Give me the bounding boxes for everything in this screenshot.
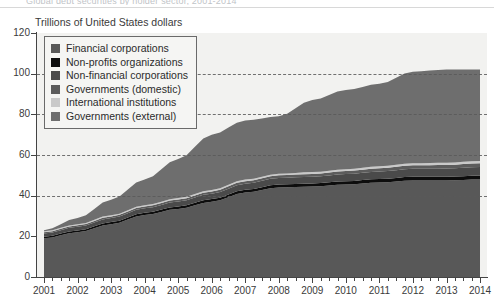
x-tick-minor bbox=[86, 277, 87, 281]
x-tick-2013 bbox=[447, 277, 448, 283]
gridline-60 bbox=[37, 155, 487, 156]
x-tick-minor bbox=[430, 277, 431, 281]
x-tick-minor bbox=[203, 277, 204, 281]
legend-item-governments-domestic[interactable]: Governments (domestic) bbox=[51, 83, 188, 97]
x-tick-minor bbox=[338, 277, 339, 281]
x-tick-minor bbox=[363, 277, 364, 281]
x-tick-minor bbox=[396, 277, 397, 281]
x-tick-minor bbox=[270, 277, 271, 281]
x-tick-minor bbox=[153, 277, 154, 281]
x-tick-2006 bbox=[212, 277, 213, 283]
x-tick-2003 bbox=[111, 277, 112, 283]
x-tick-minor bbox=[69, 277, 70, 281]
legend-item-label: Financial corporations bbox=[66, 42, 169, 56]
legend-item-label: Governments (domestic) bbox=[66, 83, 181, 97]
y-axis-label-40: 40 bbox=[0, 190, 30, 200]
x-tick-2008 bbox=[279, 277, 280, 283]
x-tick-minor bbox=[438, 277, 439, 281]
chart-legend: Financial corporations Non-profits organ… bbox=[44, 36, 197, 129]
x-tick-minor bbox=[463, 277, 464, 281]
x-tick-minor bbox=[472, 277, 473, 281]
x-tick-minor bbox=[262, 277, 263, 281]
x-tick-2010 bbox=[346, 277, 347, 283]
x-tick-minor bbox=[161, 277, 162, 281]
area-series-0 bbox=[44, 179, 480, 277]
legend-item-label: Governments (external) bbox=[66, 110, 176, 124]
x-tick-minor bbox=[371, 277, 372, 281]
chart-page: Global debt securities by holder sector,… bbox=[0, 0, 494, 306]
x-tick-2004 bbox=[145, 277, 146, 283]
legend-item-governments-external[interactable]: Governments (external) bbox=[51, 110, 188, 124]
x-tick-minor bbox=[304, 277, 305, 281]
x-tick-minor bbox=[321, 277, 322, 281]
legend-item-financial-corporations[interactable]: Financial corporations bbox=[51, 42, 188, 56]
legend-swatch-icon bbox=[51, 44, 60, 53]
legend-item-label: Non-financial corporations bbox=[66, 69, 188, 83]
x-tick-minor bbox=[388, 277, 389, 281]
y-axis-label-20: 20 bbox=[0, 231, 30, 241]
legend-swatch-icon bbox=[51, 112, 60, 121]
x-tick-2007 bbox=[245, 277, 246, 283]
x-tick-minor bbox=[128, 277, 129, 281]
x-tick-minor bbox=[254, 277, 255, 281]
x-tick-minor bbox=[52, 277, 53, 281]
y-axis-label-60: 60 bbox=[0, 150, 30, 160]
chart-subtitle: Trillions of United States dollars bbox=[35, 16, 182, 28]
x-tick-minor bbox=[329, 277, 330, 281]
y-axis-label-120: 120 bbox=[0, 28, 30, 38]
x-tick-minor bbox=[187, 277, 188, 281]
x-tick-2009 bbox=[312, 277, 313, 283]
legend-swatch-icon bbox=[51, 85, 60, 94]
legend-item-non-profits-organizations[interactable]: Non-profits organizations bbox=[51, 56, 188, 70]
legend-item-label: International institutions bbox=[66, 96, 176, 110]
x-tick-minor bbox=[455, 277, 456, 281]
cut-off-title: Global debt securities by holder sector,… bbox=[26, 0, 237, 5]
x-tick-minor bbox=[195, 277, 196, 281]
x-tick-minor bbox=[120, 277, 121, 281]
gridline-40 bbox=[37, 196, 487, 197]
x-tick-2012 bbox=[413, 277, 414, 283]
x-tick-minor bbox=[94, 277, 95, 281]
x-tick-2011 bbox=[379, 277, 380, 283]
y-axis-label-80: 80 bbox=[0, 109, 30, 119]
x-tick-minor bbox=[103, 277, 104, 281]
legend-item-international-institutions[interactable]: International institutions bbox=[51, 96, 188, 110]
legend-item-label: Non-profits organizations bbox=[66, 56, 183, 70]
x-tick-minor bbox=[170, 277, 171, 281]
x-tick-minor bbox=[354, 277, 355, 281]
y-axis-label-100: 100 bbox=[0, 68, 30, 78]
x-tick-2002 bbox=[78, 277, 79, 283]
legend-swatch-icon bbox=[51, 58, 60, 67]
x-tick-minor bbox=[61, 277, 62, 281]
x-tick-minor bbox=[220, 277, 221, 281]
x-tick-minor bbox=[405, 277, 406, 281]
header-divider bbox=[0, 7, 494, 8]
x-tick-minor bbox=[136, 277, 137, 281]
x-tick-2001 bbox=[44, 277, 45, 283]
x-tick-2005 bbox=[178, 277, 179, 283]
x-tick-minor bbox=[421, 277, 422, 281]
legend-swatch-icon bbox=[51, 98, 60, 107]
legend-swatch-icon bbox=[51, 71, 60, 80]
x-tick-minor bbox=[237, 277, 238, 281]
x-tick-2014 bbox=[480, 277, 481, 283]
y-axis-label-0: 0 bbox=[0, 272, 30, 282]
x-tick-minor bbox=[287, 277, 288, 281]
legend-item-non-financial-corporations[interactable]: Non-financial corporations bbox=[51, 69, 188, 83]
x-tick-minor bbox=[229, 277, 230, 281]
x-tick-minor bbox=[296, 277, 297, 281]
x-axis-label-2014: 2014 bbox=[460, 285, 494, 296]
